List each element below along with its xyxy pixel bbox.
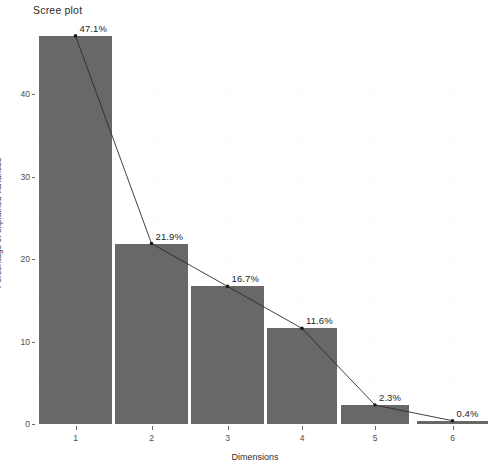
- y-tick-mark-20: [32, 259, 35, 260]
- x-tick-mark-5: [375, 426, 376, 430]
- plot-panel: 47.1%21.9%16.7%11.6%2.3%0.4%: [36, 20, 488, 426]
- x-tick-label-3: 3: [225, 433, 230, 443]
- y-tick-label-0: 0: [25, 419, 30, 429]
- x-tick-label-6: 6: [450, 433, 455, 443]
- x-tick-mark-3: [228, 426, 229, 430]
- data-label-dimension-3: 16.7%: [232, 273, 259, 284]
- trend-point-dimension-5: [373, 403, 377, 407]
- x-axis-title: Dimensions: [231, 452, 278, 462]
- data-label-dimension-2: 21.9%: [156, 231, 183, 242]
- y-tick-label-30: 30: [21, 172, 30, 182]
- x-tick-label-4: 4: [300, 433, 305, 443]
- data-label-dimension-4: 11.6%: [306, 315, 333, 326]
- y-tick-mark-40: [32, 94, 35, 95]
- trend-point-dimension-3: [226, 285, 230, 289]
- x-tick-label-5: 5: [373, 433, 378, 443]
- y-tick-mark-0: [32, 424, 35, 425]
- y-tick-label-10: 10: [21, 337, 30, 347]
- x-tick-label-1: 1: [73, 433, 78, 443]
- data-label-dimension-5: 2.3%: [379, 392, 401, 403]
- trend-point-dimension-2: [150, 242, 154, 246]
- y-axis-title: Percentage of explained variances: [0, 158, 3, 288]
- trend-point-dimension-1: [74, 34, 78, 38]
- trend-point-group: [74, 34, 455, 422]
- y-tick-mark-10: [32, 342, 35, 343]
- x-tick-mark-2: [152, 426, 153, 430]
- x-tick-mark-6: [453, 426, 454, 430]
- x-tick-mark-4: [302, 426, 303, 430]
- data-label-dimension-1: 47.1%: [80, 23, 107, 34]
- x-tick-mark-1: [76, 426, 77, 430]
- y-axis: Percentage of explained variances 010203…: [0, 20, 36, 426]
- trend-polyline: [76, 36, 453, 421]
- scree-plot-figure: Scree plot Percentage of explained varia…: [0, 0, 490, 475]
- data-label-dimension-6: 0.4%: [457, 408, 479, 419]
- y-tick-label-group: 010203040: [10, 20, 30, 426]
- trend-point-dimension-4: [300, 327, 304, 331]
- y-tick-mark-30: [32, 177, 35, 178]
- variance-trend-line: [36, 20, 488, 426]
- trend-point-dimension-6: [451, 419, 455, 423]
- x-tick-label-2: 2: [149, 433, 154, 443]
- y-tick-label-20: 20: [21, 254, 30, 264]
- y-tick-label-40: 40: [21, 89, 30, 99]
- page-title: Scree plot: [33, 4, 82, 16]
